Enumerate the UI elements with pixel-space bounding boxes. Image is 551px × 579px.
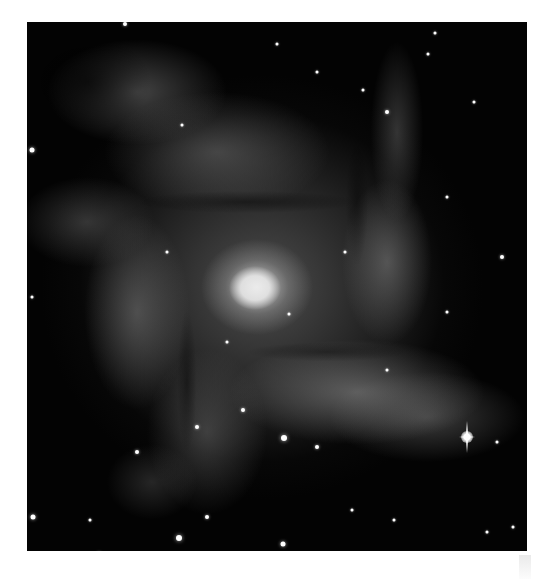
- star-field: [27, 22, 527, 551]
- star: [89, 519, 92, 522]
- scan-edge-artifact: [519, 555, 531, 579]
- diffraction-spike-horizontal: [459, 436, 475, 438]
- star: [281, 542, 286, 547]
- star: [31, 296, 34, 299]
- star: [486, 531, 489, 534]
- star: [316, 71, 319, 74]
- star: [30, 148, 35, 153]
- star: [241, 408, 245, 412]
- star: [344, 251, 347, 254]
- star: [226, 341, 229, 344]
- star: [195, 425, 199, 429]
- star: [176, 535, 182, 541]
- star: [362, 89, 365, 92]
- star: [31, 515, 36, 520]
- bright-foreground-star: [457, 421, 477, 453]
- galaxy-photograph: [27, 22, 527, 551]
- star: [446, 311, 449, 314]
- star: [434, 32, 437, 35]
- star: [205, 515, 209, 519]
- star: [315, 445, 319, 449]
- star: [281, 435, 287, 441]
- star: [276, 43, 279, 46]
- star: [166, 251, 169, 254]
- star: [351, 509, 354, 512]
- star: [473, 101, 476, 104]
- star: [393, 519, 396, 522]
- star: [135, 450, 139, 454]
- star: [123, 22, 127, 26]
- star: [288, 313, 291, 316]
- page: [0, 0, 551, 579]
- star: [496, 441, 499, 444]
- star: [181, 124, 184, 127]
- star: [446, 196, 449, 199]
- star: [386, 369, 389, 372]
- star: [512, 526, 515, 529]
- star: [427, 53, 430, 56]
- star: [500, 255, 504, 259]
- star: [385, 110, 389, 114]
